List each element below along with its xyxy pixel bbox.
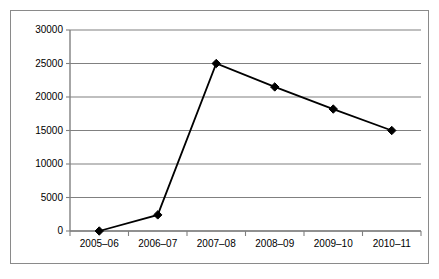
x-axis-label: 2008–09 [245, 238, 305, 249]
y-axis-label: 10000 [17, 158, 63, 169]
data-point-marker-4 [329, 105, 337, 113]
y-axis-label: 25000 [17, 58, 63, 69]
y-axis-label: 30000 [17, 24, 63, 35]
data-point-marker-2 [212, 59, 220, 67]
x-axis-label: 2006–07 [128, 238, 188, 249]
data-point-marker-5 [388, 126, 396, 134]
y-axis-label: 20000 [17, 91, 63, 102]
y-axis-label: 0 [17, 225, 63, 236]
gridlines-group [70, 30, 421, 231]
data-point-marker-0 [95, 227, 103, 235]
data-series-line [99, 64, 392, 232]
data-point-marker-3 [271, 83, 279, 91]
x-axis-label: 2007–08 [186, 238, 246, 249]
data-point-markers [95, 59, 396, 235]
chart-container: 300002500020000150001000050000 2005–0620… [0, 0, 439, 279]
series-line-1 [99, 64, 392, 232]
data-point-marker-1 [154, 211, 162, 219]
x-axis-label: 2010–11 [362, 238, 422, 249]
x-axis-tick-marks [70, 231, 421, 236]
x-axis-label: 2009–10 [303, 238, 363, 249]
y-axis-label: 5000 [17, 192, 63, 203]
y-axis-label: 15000 [17, 125, 63, 136]
x-axis-label: 2005–06 [69, 238, 129, 249]
